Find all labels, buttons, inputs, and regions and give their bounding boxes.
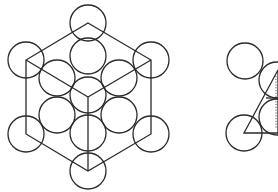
cube-packing-figure (8, 5, 169, 189)
sphere-circle (101, 97, 137, 133)
sphere-circle (227, 43, 263, 79)
sphere-circle (39, 97, 75, 133)
diagram-svg (0, 0, 278, 192)
tetrahedral-packing-figure (226, 43, 278, 151)
triangle-outline (244, 70, 278, 133)
cube-edge-line (88, 60, 151, 97)
diagram-canvas (0, 0, 278, 192)
sphere-circle (70, 38, 106, 74)
cube-edge-line (26, 60, 88, 97)
sphere-circle (101, 60, 137, 96)
